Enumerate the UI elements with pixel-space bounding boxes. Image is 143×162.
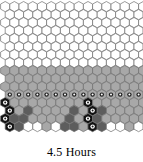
hexagon-cell <box>79 122 88 132</box>
hexagon-figure: 4.5 Hours <box>0 0 143 162</box>
hexagon-cell <box>70 122 79 132</box>
hexagon-cell <box>14 122 23 132</box>
cell-marker-dot <box>138 94 140 96</box>
figure-caption: 4.5 Hours <box>0 143 143 162</box>
cell-marker-dot <box>46 94 48 96</box>
cell-marker-dot <box>128 94 130 96</box>
hexagon-cell <box>60 122 69 132</box>
hexagon-cell <box>33 122 42 132</box>
hexagon-cell <box>24 122 33 132</box>
cell-marker-dot <box>4 102 6 104</box>
cell-marker-dot <box>87 118 89 120</box>
cell-marker-dot <box>82 94 84 96</box>
hexagon-cell <box>106 122 115 132</box>
cell-marker-dot <box>4 118 6 120</box>
cell-marker-dot <box>9 94 11 96</box>
cell-marker-dot <box>9 126 11 128</box>
cell-marker-dot <box>73 94 75 96</box>
hexagon-cell <box>125 122 134 132</box>
cell-marker-dot <box>55 94 57 96</box>
cell-marker-dot <box>110 94 112 96</box>
cell-marker-dot <box>92 110 94 112</box>
hexagon-cell-layer <box>1 2 143 132</box>
cell-marker-dot <box>119 94 121 96</box>
cell-marker-dot <box>87 102 89 104</box>
hexagon-cell <box>134 122 143 132</box>
cell-marker-dot <box>101 94 103 96</box>
cell-marker-dot <box>18 94 20 96</box>
hexagon-cell <box>97 122 106 132</box>
cell-marker-dot <box>92 126 94 128</box>
cell-marker-dot <box>64 94 66 96</box>
hexagon-grid <box>0 0 143 143</box>
hexagon-cell <box>51 122 60 132</box>
hexagon-cell <box>42 122 51 132</box>
cell-marker-dot <box>92 94 94 96</box>
cell-marker-dot <box>36 94 38 96</box>
cell-marker-dot <box>27 94 29 96</box>
cell-marker-dot <box>9 110 11 112</box>
hexagon-cell <box>116 122 125 132</box>
